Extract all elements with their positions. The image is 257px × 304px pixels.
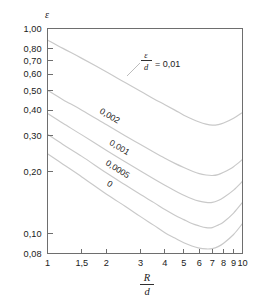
x-axis-tick-label: 1 <box>45 258 50 268</box>
x-axis-tick-label: 2 <box>104 258 109 268</box>
x-axis-tick-label: 6 <box>197 258 202 268</box>
y-axis-tick-label: 0,80 <box>24 44 42 54</box>
y-axis-tick-label: 0,50 <box>24 86 42 96</box>
x-axis-tick-label: 5 <box>181 258 186 268</box>
y-axis-tick-label: 0,70 <box>24 56 42 66</box>
y-axis-label: ε <box>45 9 49 20</box>
x-axis-tick-label: 4 <box>162 258 167 268</box>
y-axis-tick-label: 0,30 <box>24 131 42 141</box>
x-axis-label-numerator: R <box>143 272 151 283</box>
log-log-chart: 0,080,100,200,300,400,500,600,700,801,00… <box>0 0 257 304</box>
y-axis-tick-label: 0,40 <box>24 105 42 115</box>
y-axis-tick-label: 1,00 <box>24 24 42 34</box>
x-axis-tick-label: 9 <box>231 258 236 268</box>
x-axis-tick-label: 3 <box>138 258 143 268</box>
x-axis-label-denominator: d <box>144 286 150 297</box>
y-axis-tick-label: 0,08 <box>24 249 42 259</box>
x-axis-tick-label: 7 <box>210 258 215 268</box>
x-axis-tick-label: 10 <box>237 258 247 268</box>
x-axis-tick-label: 8 <box>221 258 226 268</box>
x-axis-tick-label: 1,5 <box>75 258 88 268</box>
y-axis-tick-label: 0,20 <box>24 167 42 177</box>
annotation-equals-value: = 0,01 <box>155 59 180 69</box>
y-axis-tick-label: 0,10 <box>24 229 42 239</box>
chart-container: 0,080,100,200,300,400,500,600,700,801,00… <box>0 0 257 304</box>
y-axis-tick-label: 0,60 <box>24 69 42 79</box>
